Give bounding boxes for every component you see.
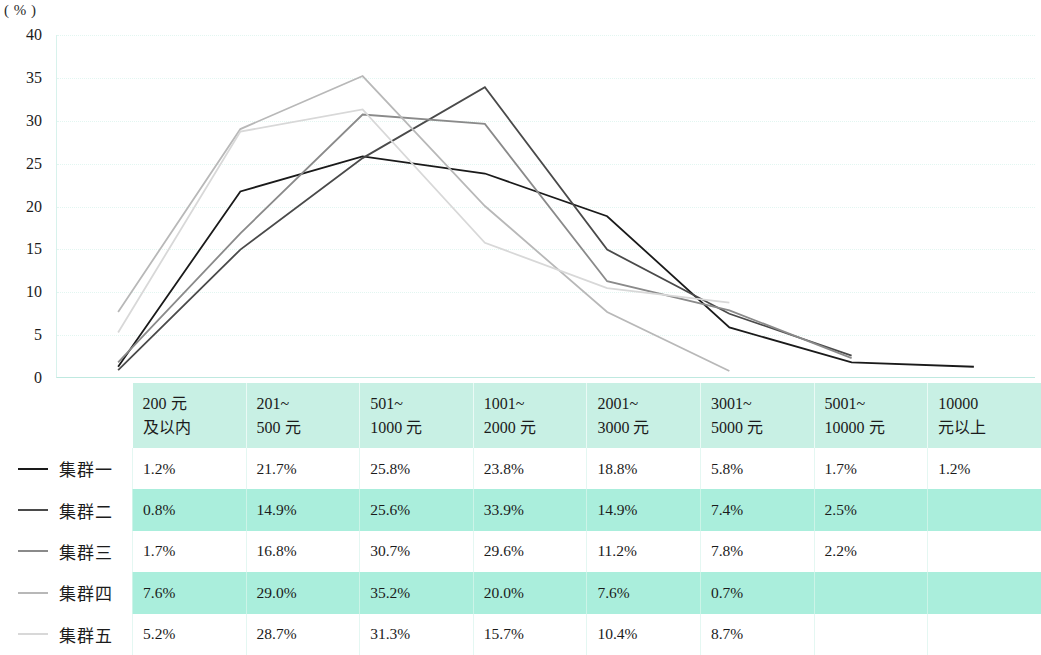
table-column-header: 10000元以上 [928, 383, 1041, 448]
plot-area [56, 35, 1035, 378]
header-line-1: 10000 [938, 392, 1041, 415]
table-cell [928, 572, 1041, 613]
header-line-2: 及以内 [143, 416, 246, 439]
table-cell [814, 614, 928, 655]
header-line-1: 3001~ [711, 392, 814, 415]
header-line-2: 元以上 [938, 416, 1041, 439]
table-cell: 8.7% [700, 614, 814, 655]
header-line-1: 501~ [370, 392, 473, 415]
y-axis-unit-label: ( % ) [4, 2, 37, 19]
y-axis-tick: 30 [26, 112, 42, 130]
header-line-1: 1001~ [484, 392, 587, 415]
legend-item[interactable]: 集群四 [0, 572, 132, 613]
y-axis-tick: 0 [34, 369, 42, 387]
y-axis-tick: 35 [26, 69, 42, 87]
table-column-header: 2001~3000 元 [587, 383, 701, 448]
series-line [118, 76, 729, 371]
legend-item[interactable]: 集群二 [0, 489, 132, 530]
header-line-1: 200 元 [143, 392, 246, 415]
table-cell: 21.7% [246, 448, 360, 489]
legend-line-swatch [18, 468, 48, 470]
legend-item-label: 集群五 [59, 622, 113, 647]
table-cell [928, 489, 1041, 530]
legend-item-label: 集群四 [59, 580, 113, 605]
table-row: 5.2%28.7%31.3%15.7%10.4%8.7% [133, 614, 1041, 655]
chart-legend: 集群一集群二集群三集群四集群五 [0, 448, 132, 655]
table-cell: 20.0% [473, 572, 587, 613]
legend-item[interactable]: 集群一 [0, 448, 132, 489]
table-column-header: 200 元及以内 [133, 383, 247, 448]
table-column-header: 1001~2000 元 [473, 383, 587, 448]
table-cell: 2.5% [814, 489, 928, 530]
y-axis-tick: 40 [26, 26, 42, 44]
table-cell: 23.8% [473, 448, 587, 489]
line-chart: ( % ) 4035302520151050 [0, 0, 1041, 385]
header-line-2: 10000 元 [825, 416, 928, 439]
header-line-1: 2001~ [597, 392, 700, 415]
table-cell: 0.8% [133, 489, 247, 530]
header-line-2: 500 元 [257, 416, 360, 439]
table-cell: 29.6% [473, 531, 587, 572]
table-row: 1.2%21.7%25.8%23.8%18.8%5.8%1.7%1.2% [133, 448, 1041, 489]
table-cell: 30.7% [360, 531, 474, 572]
legend-line-swatch [18, 592, 48, 594]
table-row: 0.8%14.9%25.6%33.9%14.9%7.4%2.5% [133, 489, 1041, 530]
table-row: 1.7%16.8%30.7%29.6%11.2%7.8%2.2% [133, 531, 1041, 572]
table-cell: 5.2% [133, 614, 247, 655]
table-cell: 31.3% [360, 614, 474, 655]
data-table: 200 元及以内201~500 元501~1000 元1001~2000 元20… [132, 383, 1041, 655]
series-line [118, 156, 974, 366]
table-cell [928, 531, 1041, 572]
table-cell: 29.0% [246, 572, 360, 613]
y-axis: 4035302520151050 [0, 28, 48, 378]
series-lines [57, 35, 1035, 377]
table-head: 200 元及以内201~500 元501~1000 元1001~2000 元20… [133, 383, 1041, 448]
table-cell: 35.2% [360, 572, 474, 613]
table-cell: 28.7% [246, 614, 360, 655]
series-line [118, 87, 852, 370]
table-cell: 14.9% [587, 489, 701, 530]
table-cell: 10.4% [587, 614, 701, 655]
y-axis-tick: 20 [26, 198, 42, 216]
table-cell: 16.8% [246, 531, 360, 572]
data-table-region: 200 元及以内201~500 元501~1000 元1001~2000 元20… [132, 383, 1041, 655]
table-cell: 33.9% [473, 489, 587, 530]
table-cell: 7.4% [700, 489, 814, 530]
legend-item-label: 集群二 [59, 498, 113, 523]
table-cell [928, 614, 1041, 655]
table-cell: 7.6% [133, 572, 247, 613]
y-axis-tick: 5 [34, 326, 42, 344]
y-axis-tick: 15 [26, 240, 42, 258]
legend-item-label: 集群一 [59, 456, 113, 481]
table-cell: 1.7% [814, 448, 928, 489]
table-column-header: 5001~10000 元 [814, 383, 928, 448]
table-row: 7.6%29.0%35.2%20.0%7.6%0.7% [133, 572, 1041, 613]
legend-item[interactable]: 集群三 [0, 531, 132, 572]
table-cell: 1.2% [928, 448, 1041, 489]
table-cell: 18.8% [587, 448, 701, 489]
legend-line-swatch [18, 633, 48, 635]
table-column-header: 3001~5000 元 [700, 383, 814, 448]
legend-item[interactable]: 集群五 [0, 614, 132, 655]
table-cell: 1.2% [133, 448, 247, 489]
table-cell: 1.7% [133, 531, 247, 572]
table-body: 1.2%21.7%25.8%23.8%18.8%5.8%1.7%1.2%0.8%… [133, 448, 1041, 655]
table-cell: 11.2% [587, 531, 701, 572]
y-axis-tick: 10 [26, 283, 42, 301]
table-cell: 25.8% [360, 448, 474, 489]
table-cell: 7.8% [700, 531, 814, 572]
table-cell: 2.2% [814, 531, 928, 572]
table-cell: 14.9% [246, 489, 360, 530]
series-line [118, 109, 729, 332]
table-cell [814, 572, 928, 613]
table-header-row: 200 元及以内201~500 元501~1000 元1001~2000 元20… [133, 383, 1041, 448]
table-cell: 25.6% [360, 489, 474, 530]
header-line-1: 201~ [257, 392, 360, 415]
table-cell: 15.7% [473, 614, 587, 655]
legend-line-swatch [18, 509, 48, 511]
y-axis-tick: 25 [26, 155, 42, 173]
table-column-header: 501~1000 元 [360, 383, 474, 448]
header-line-1: 5001~ [825, 392, 928, 415]
header-line-2: 3000 元 [597, 416, 700, 439]
legend-line-swatch [18, 550, 48, 552]
